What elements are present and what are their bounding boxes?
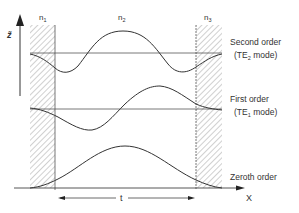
second-order-label: Second order [230, 37, 281, 47]
region-label-n2: n2 [118, 13, 126, 23]
region-label-n3: n3 [204, 13, 212, 23]
zeroth-order-label: Zeroth order [230, 172, 277, 182]
first-order-label: First order [230, 94, 269, 104]
z-axis-label: z̃ [7, 30, 12, 40]
x-axis-label: X [246, 193, 252, 203]
thickness-dimension-arrow [58, 196, 195, 200]
thickness-label: t [120, 193, 123, 203]
first-order-mode-curve [30, 86, 222, 130]
second-order-mode-label: (TE2 mode) [234, 50, 277, 63]
left-cladding-region [30, 25, 55, 188]
z-axis-arrow [16, 14, 24, 96]
second-order-mode-curve [30, 31, 222, 72]
right-cladding-region [196, 25, 222, 188]
region-label-n1: n1 [39, 13, 47, 23]
zeroth-order-mode-curve [30, 146, 222, 188]
first-order-mode-label: (TE1 mode) [234, 107, 277, 120]
